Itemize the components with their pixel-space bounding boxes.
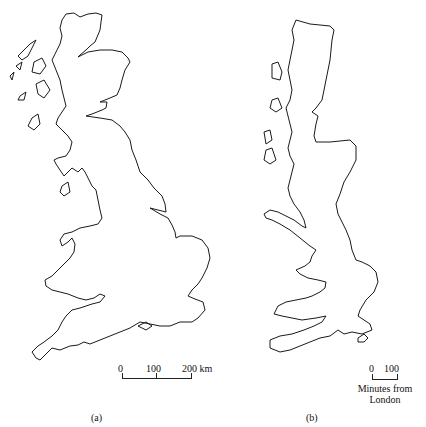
panel-a-caption: (a) — [91, 412, 102, 423]
scale-bar-line — [372, 374, 398, 380]
scale-bar-line — [122, 373, 192, 379]
hebrides-islands — [10, 40, 70, 196]
scale-unit-line1: Minutes from — [355, 383, 415, 394]
scale-tick-label-100: 100 — [384, 363, 399, 374]
scale-tick-label-0: 0 — [369, 363, 374, 374]
map-figure — [0, 0, 426, 427]
panel-a-map — [10, 13, 210, 360]
panel-b-map — [264, 20, 378, 352]
scale-bar-mid-tick — [156, 373, 157, 379]
time-distorted-islands — [264, 62, 282, 164]
time-distorted-wight — [358, 334, 368, 342]
great-britain-outline — [32, 13, 210, 360]
scale-unit-line2: London — [355, 394, 415, 405]
panel-b-caption: (b) — [306, 412, 318, 423]
